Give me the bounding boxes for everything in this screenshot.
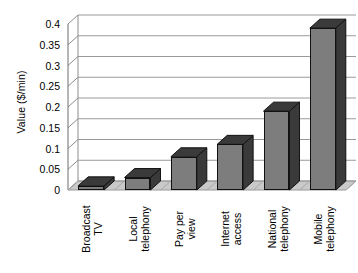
axis-depth-edge bbox=[68, 98, 78, 107]
y-tick-label: 0.3 bbox=[45, 60, 60, 72]
y-tick-label: 0.25 bbox=[40, 80, 60, 92]
bar-front-face bbox=[78, 186, 104, 190]
axis-depth-edge bbox=[68, 119, 78, 128]
x-axis-label: Pay per view bbox=[174, 192, 197, 266]
axis-depth-edge bbox=[68, 77, 78, 86]
x-axis-label: Local telephony bbox=[128, 192, 151, 266]
y-tick-label: 0.15 bbox=[40, 122, 60, 134]
x-axis-label: Broadcast TV bbox=[81, 192, 104, 266]
bar-chart: Value ($/min) 00.050.10.150.20.250.30.35… bbox=[0, 0, 358, 273]
axis-depth-edge bbox=[68, 160, 78, 169]
y-tick-label: 0.4 bbox=[45, 18, 60, 30]
axis-depth-edge bbox=[68, 140, 78, 149]
y-tick-label: 0.1 bbox=[45, 143, 60, 155]
bar-front-face bbox=[217, 144, 243, 190]
axis-depth-edge bbox=[68, 57, 78, 66]
y-tick-label: 0.05 bbox=[40, 163, 60, 175]
bar-front-face bbox=[125, 178, 151, 190]
x-axis-label: Mobile telephony bbox=[313, 192, 336, 266]
x-axis-label: Internet access bbox=[220, 192, 243, 266]
axis-depth-edge bbox=[68, 36, 78, 45]
x-axis-label: National telephony bbox=[267, 192, 290, 266]
bar-front-face bbox=[171, 157, 197, 190]
y-tick-label: 0 bbox=[54, 184, 60, 196]
bar-front-face bbox=[264, 111, 290, 190]
axis-depth-edge bbox=[68, 15, 78, 24]
y-axis-ticks: 00.050.10.150.20.250.30.350.4 bbox=[24, 0, 60, 273]
bar-front-face bbox=[310, 28, 336, 190]
y-tick-label: 0.35 bbox=[40, 39, 60, 51]
y-tick-label: 0.2 bbox=[45, 101, 60, 113]
